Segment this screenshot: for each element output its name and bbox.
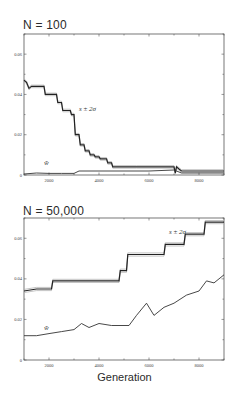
x-tick-label: 8000 [195,363,205,368]
chart-canvas: 200040006000800000.020.040.06s ± 2σw̄200… [0,0,239,404]
upper-band-line [24,221,224,290]
series-annotation: w̄ [44,159,49,167]
s-mean-line [24,80,224,173]
w-bar-line [24,275,224,336]
y-tick-label: 0.02 [14,317,22,322]
lower-band-line [24,82,224,175]
y-tick-label: 0.04 [14,92,23,97]
y-tick-label: 0 [20,173,23,178]
x-tick-label: 2000 [45,363,55,368]
x-tick-label: 8000 [195,178,205,183]
upper-band-line [24,79,224,172]
x-tick-label: 6000 [145,178,155,183]
y-tick-label: 0.06 [14,52,23,57]
plot-n100: 200040006000800000.020.040.06s ± 2σw̄ [14,34,224,183]
plot-n50000: 200040006000800000.020.040.06s ± 2σw̄ [14,218,224,368]
y-tick-label: 0.06 [14,236,23,241]
series-annotation: s ± 2σ [169,228,187,236]
y-tick-label: 0.04 [14,276,23,281]
y-tick-label: 0.02 [14,132,22,137]
x-tick-label: 4000 [95,178,105,183]
x-tick-label: 6000 [145,363,155,368]
plot-frame [24,218,224,360]
y-tick-label: 0 [20,358,23,363]
series-annotation: w̄ [44,324,49,332]
series-annotation: s ± 2σ [79,105,97,113]
x-axis-label: Generation [0,371,239,383]
x-tick-label: 4000 [95,363,105,368]
x-tick-label: 2000 [45,178,55,183]
plot-frame [24,34,224,175]
